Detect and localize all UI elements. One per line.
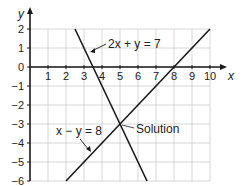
y-tick-label: 1 <box>18 42 24 54</box>
x-axis-label: x <box>227 69 235 83</box>
x-tick-label: 10 <box>204 70 216 82</box>
y-tick-label: −2 <box>11 99 24 111</box>
axes <box>27 7 227 181</box>
x-tick-label: 2 <box>63 70 69 82</box>
y-tick-label: 2 <box>18 23 24 35</box>
y-tick-label: −1 <box>11 80 24 92</box>
tick-labels: 12345678910210−1−2−3−4−5−6xy <box>11 7 235 186</box>
label-equation-2: x − y = 8 <box>56 124 102 138</box>
x-axis-arrow-icon <box>220 64 227 70</box>
label-solution: Solution <box>136 122 179 136</box>
y-tick-label: −3 <box>11 118 24 130</box>
y-axis-label: y <box>17 7 25 21</box>
x-tick-label: 8 <box>171 70 177 82</box>
y-tick-label: −6 <box>11 175 24 186</box>
x-tick-label: 1 <box>45 70 51 82</box>
linear-system-graph: 12345678910210−1−2−3−4−5−6xy 2x + y = 7x… <box>0 0 248 186</box>
x-tick-label: 9 <box>189 70 195 82</box>
x-tick-label: 5 <box>117 70 123 82</box>
x-tick-label: 7 <box>153 70 159 82</box>
y-tick-label: −4 <box>11 137 24 149</box>
y-tick-label: 0 <box>18 61 24 73</box>
x-tick-label: 6 <box>135 70 141 82</box>
y-axis-arrow-icon <box>27 7 33 14</box>
y-tick-label: −5 <box>11 156 24 168</box>
annotations: 2x + y = 7x − y = 8Solution <box>56 37 179 152</box>
grid-lines <box>30 29 210 181</box>
x-tick-label: 3 <box>81 70 87 82</box>
label-equation-1: 2x + y = 7 <box>108 37 161 51</box>
graph-canvas: 12345678910210−1−2−3−4−5−6xy 2x + y = 7x… <box>0 0 248 186</box>
